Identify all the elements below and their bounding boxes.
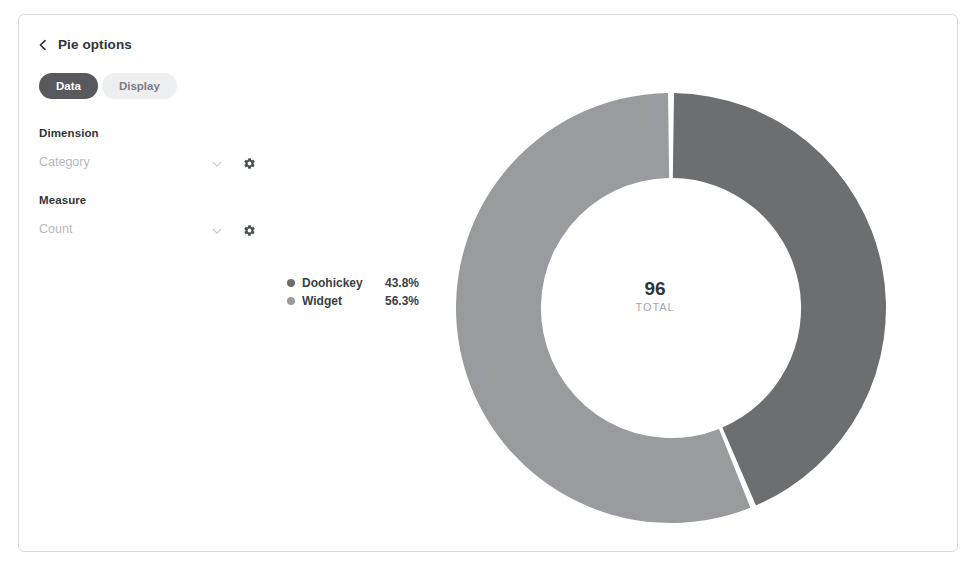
measure-control: Count xyxy=(39,219,269,239)
chart-legend: Doohickey 43.8% Widget 56.3% xyxy=(287,275,419,311)
legend-label: Widget xyxy=(302,294,375,308)
gear-icon[interactable] xyxy=(243,223,256,236)
legend-label: Doohickey xyxy=(302,276,375,290)
pie-chart: 96 TOTAL xyxy=(420,76,890,542)
page-title: Pie options xyxy=(58,37,132,52)
measure-select[interactable]: Count xyxy=(39,222,211,236)
dimension-label: Dimension xyxy=(39,127,269,139)
legend-color-swatch-icon xyxy=(287,297,295,305)
pie-options-card: Pie options Data Display Dimension Categ… xyxy=(18,14,958,552)
dimension-control: Category xyxy=(39,152,269,172)
tab-bar: Data Display xyxy=(39,73,177,99)
tab-display[interactable]: Display xyxy=(102,73,177,99)
chevron-left-icon[interactable] xyxy=(37,39,49,51)
tab-data[interactable]: Data xyxy=(39,73,98,99)
chevron-down-icon[interactable] xyxy=(211,156,223,168)
legend-item[interactable]: Doohickey 43.8% xyxy=(287,275,419,291)
screen-root: Pie options Data Display Dimension Categ… xyxy=(0,0,980,567)
legend-percent: 43.8% xyxy=(375,276,419,290)
donut-svg xyxy=(420,76,890,542)
legend-item[interactable]: Widget 56.3% xyxy=(287,293,419,309)
gear-icon[interactable] xyxy=(243,156,256,169)
dimension-select[interactable]: Category xyxy=(39,155,211,169)
dimension-field: Dimension Category xyxy=(39,127,269,172)
legend-color-swatch-icon xyxy=(287,279,295,287)
legend-percent: 56.3% xyxy=(375,294,419,308)
panel-header: Pie options xyxy=(37,37,132,52)
chevron-down-icon[interactable] xyxy=(211,223,223,235)
measure-field: Measure Count xyxy=(39,194,269,239)
measure-label: Measure xyxy=(39,194,269,206)
